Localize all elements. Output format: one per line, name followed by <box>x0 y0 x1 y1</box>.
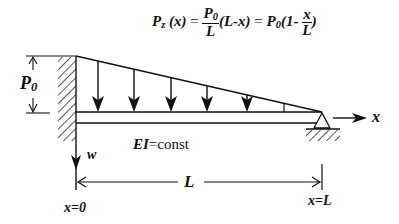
x-axis-label: x <box>372 109 380 125</box>
span-label: L <box>184 173 194 190</box>
distributed-load <box>76 56 322 112</box>
right-end-label: x=L <box>308 194 332 208</box>
fixed-wall-support <box>58 56 76 190</box>
p0-label: P0 <box>20 74 37 94</box>
beam <box>76 112 322 123</box>
span-dimension <box>78 164 322 190</box>
pin-support <box>306 113 340 141</box>
left-end-label: x=0 <box>64 201 86 215</box>
stiffness-label: EI=const <box>133 137 189 152</box>
load-formula: Pz (x) = P0L(L-x) = P0(1- xL) <box>152 6 317 39</box>
x-axis-arrow <box>333 113 367 123</box>
w-axis-label: w <box>87 148 96 162</box>
